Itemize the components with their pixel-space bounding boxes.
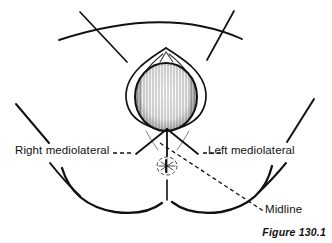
anus-radiating-folds <box>159 159 175 173</box>
left-thigh-line-upper <box>16 104 49 143</box>
label-left-mediolateral: Left mediolateral <box>208 144 295 156</box>
abdomen-arc <box>59 22 242 40</box>
left-upper-thigh-stroke <box>80 12 127 62</box>
right-upper-thigh-stroke <box>207 11 234 60</box>
label-midline: Midline <box>265 203 302 215</box>
label-right-mediolateral: Right mediolateral <box>15 144 110 156</box>
fetal-head-crowning <box>135 55 197 138</box>
incision-lines <box>136 129 198 156</box>
perineal-skin-right <box>177 131 189 150</box>
right-thigh-line-upper <box>287 99 314 142</box>
abdomen-arc-group <box>59 11 242 62</box>
left-buttock-curve <box>62 168 162 213</box>
incision-right-mediolateral <box>136 129 167 154</box>
clitoral-apex <box>160 52 173 62</box>
incision-left-mediolateral <box>167 129 198 154</box>
right-buttock-curve <box>172 166 272 213</box>
anus <box>157 157 177 175</box>
figure-130-1: Right mediolateral Left mediolateral Mid… <box>0 0 332 243</box>
figure-caption: Figure 130.1 <box>262 226 326 238</box>
